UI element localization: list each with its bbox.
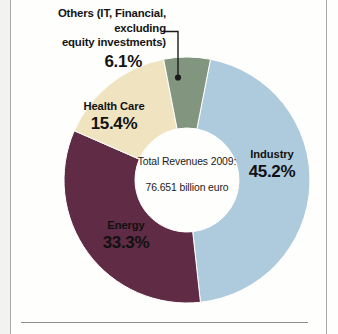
- others-callout-percent: 6.1%: [14, 52, 142, 72]
- chart-figure: Others (IT, Financial, excluding equity …: [0, 0, 338, 334]
- leader-line-dot: [175, 74, 181, 80]
- slice-name-health-care: Health Care: [62, 100, 166, 113]
- others-callout-label: Others (IT, Financial, excluding equity …: [14, 6, 166, 72]
- center-total-amount: 76.651 billion euro: [126, 181, 248, 194]
- donut-center-label: Total Revenues 2009: 76.651 billion euro: [126, 155, 248, 194]
- others-callout-line2: equity investments): [62, 36, 166, 48]
- slice-label-energy: Energy 33.3%: [86, 219, 166, 252]
- slice-percent-energy: 33.3%: [86, 233, 166, 252]
- slice-name-energy: Energy: [86, 219, 166, 232]
- slice-label-health-care: Health Care 15.4%: [62, 100, 166, 133]
- others-callout-line1: Others (IT, Financial, excluding: [58, 7, 166, 34]
- slice-percent-health-care: 15.4%: [62, 114, 166, 133]
- center-total-revenues: Total Revenues 2009:: [126, 155, 248, 168]
